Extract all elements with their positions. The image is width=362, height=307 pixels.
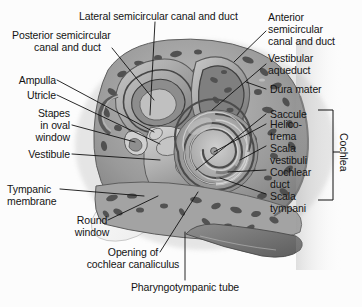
- label-anterior-semicircular-canal-line3: canal and duct: [268, 35, 335, 47]
- label-scala-vestibuli-line1: Scala: [270, 142, 296, 154]
- label-stapes-line3: window: [0, 131, 70, 143]
- label-ampulla: Ampulla: [0, 74, 56, 86]
- label-helicotrema-line1: Helico-: [270, 118, 302, 130]
- label-tympanic-membrane-line1: Tympanic: [7, 183, 51, 195]
- label-opening-canaliculus-line1: Opening of: [63, 246, 203, 258]
- label-vestibular-aqueduct-line2: aqueduct: [268, 64, 310, 76]
- label-vestibular-aqueduct-line1: Vestibular: [268, 52, 313, 64]
- label-pharyngotympanic-tube: Pharyngotympanic tube: [110, 281, 260, 293]
- label-posterior-semicircular-canal-line1: Posterior semicircular: [12, 29, 111, 41]
- label-cochlea-bracket: Cochlea: [338, 133, 350, 172]
- label-scala-tympani-line2: tympani: [270, 202, 306, 214]
- label-round-window-line2: window: [62, 226, 122, 238]
- label-scala-tympani-line1: Scala: [270, 190, 296, 202]
- label-cochlear-duct-line1: Cochlear: [270, 166, 311, 178]
- label-helicotrema-line2: trema: [270, 130, 296, 142]
- label-cochlear-duct-line2: duct: [270, 178, 289, 190]
- label-tympanic-membrane-line2: membrane: [7, 195, 56, 207]
- membranous-duct: [140, 89, 177, 120]
- label-opening-canaliculus-line2: cochlear canaliculus: [63, 258, 203, 270]
- label-stapes-line2: in oval: [0, 119, 70, 131]
- label-dura-mater: Dura mater: [270, 83, 322, 95]
- label-posterior-semicircular-canal-line2: canal and duct: [34, 41, 101, 53]
- label-stapes-line1: Stapes: [0, 107, 70, 119]
- label-lateral-semicircular-canal: Lateral semicircular canal and duct: [79, 10, 238, 22]
- inner-ear-diagram-figure: Lateral semicircular canal and duct Post…: [0, 0, 362, 307]
- helicotrema: [211, 148, 218, 155]
- label-anterior-semicircular-canal-line1: Anterior: [268, 11, 304, 23]
- label-round-window-line1: Round: [62, 214, 122, 226]
- label-anterior-semicircular-canal-line2: semicircular: [268, 23, 323, 35]
- label-scala-vestibuli-line2: vestibuli: [270, 154, 307, 166]
- label-utricle: Utricle: [0, 89, 56, 101]
- label-vestibule: Vestibule: [0, 148, 70, 160]
